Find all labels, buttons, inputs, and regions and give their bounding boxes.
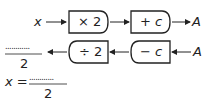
equation-blank-numerator: ............: [29, 74, 54, 82]
output-a: A: [192, 15, 201, 28]
multiply-label: × 2: [78, 15, 101, 28]
input-x: x: [34, 15, 42, 28]
result-denominator: 2: [20, 57, 28, 70]
input-a: A: [193, 45, 202, 58]
divide-label: ÷ 2: [79, 45, 102, 58]
add-label: + c: [140, 15, 162, 28]
flow-diagram: [0, 0, 207, 100]
subtract-label: − c: [140, 45, 162, 58]
blank-numerator: ............: [5, 43, 30, 51]
equation-lhs: x =: [5, 75, 28, 88]
equation-denominator: 2: [44, 87, 52, 100]
